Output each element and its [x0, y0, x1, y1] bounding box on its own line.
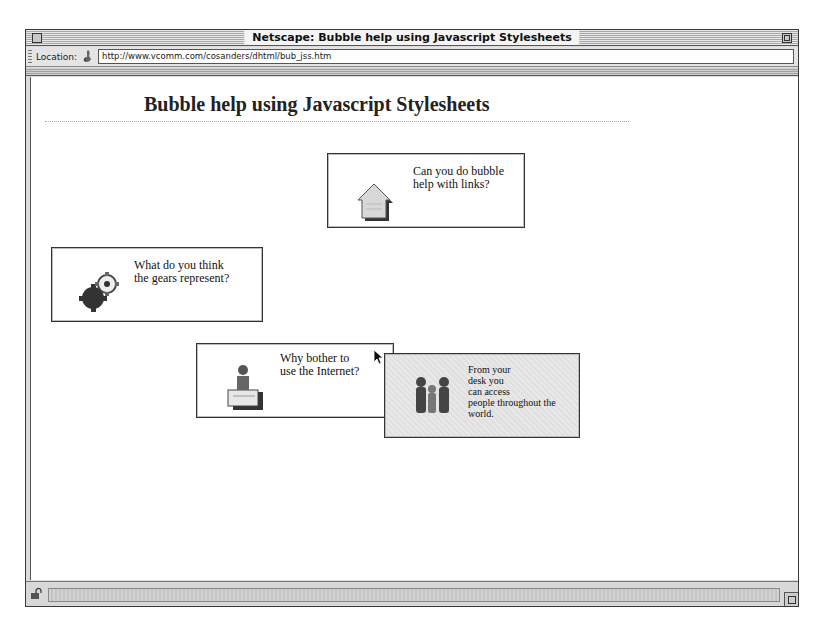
- browser-window: Netscape: Bubble help using Javascript S…: [25, 29, 799, 607]
- toolbar-divider: [26, 68, 798, 76]
- title-bar[interactable]: Netscape: Bubble help using Javascript S…: [26, 30, 798, 46]
- bubble-line: desk you: [468, 375, 556, 386]
- bubble-internet[interactable]: Why bother to use the Internet?: [196, 343, 394, 418]
- bubble-line: world.: [468, 408, 556, 419]
- bubble-text: Why bother to use the Internet?: [280, 352, 359, 378]
- status-text: [48, 588, 780, 602]
- bubble-line: can access: [468, 386, 556, 397]
- location-label: Location:: [36, 50, 77, 64]
- bubble-links[interactable]: Can you do bubble help with links?: [327, 153, 525, 228]
- bubble-line: help with links?: [413, 178, 504, 191]
- bubble-line: From your: [468, 364, 556, 375]
- bubble-line: people throughout the: [468, 397, 556, 408]
- gears-icon[interactable]: [77, 266, 125, 314]
- people-icon: [411, 374, 455, 418]
- security-lock-icon[interactable]: [30, 588, 42, 600]
- mouse-pointer-icon: [373, 349, 383, 365]
- bubble-text: From your desk you can access people thr…: [468, 364, 556, 419]
- location-toolbar: Location: http://www.vcomm.com/cosanders…: [26, 47, 798, 67]
- toolbar-collapse-grip-icon[interactable]: [28, 50, 32, 64]
- url-input[interactable]: http://www.vcomm.com/cosanders/dhtml/bub…: [98, 49, 794, 64]
- close-box-icon[interactable]: [32, 33, 42, 43]
- bubble-line: the gears represent?: [134, 272, 229, 285]
- bubble-text: Can you do bubble help with links?: [413, 165, 504, 191]
- house-icon[interactable]: [352, 178, 396, 222]
- window-title: Netscape: Bubble help using Javascript S…: [244, 30, 579, 45]
- status-bar: [26, 581, 798, 606]
- bubble-gears[interactable]: What do you think the gears represent?: [51, 247, 263, 322]
- page-title: Bubble help using Javascript Stylesheets: [144, 93, 490, 116]
- page-proxy-icon[interactable]: [81, 49, 95, 64]
- bubble-line: use the Internet?: [280, 365, 359, 378]
- bubble-text: What do you think the gears represent?: [134, 259, 229, 285]
- bubble-help-tooltip: From your desk you can access people thr…: [384, 353, 580, 438]
- horizontal-rule: [45, 121, 629, 122]
- zoom-box-icon[interactable]: [782, 33, 792, 43]
- resize-handle-icon[interactable]: [784, 592, 798, 606]
- person-at-desk-icon[interactable]: [221, 362, 267, 412]
- page-content: Bubble help using Javascript Stylesheets…: [30, 77, 798, 580]
